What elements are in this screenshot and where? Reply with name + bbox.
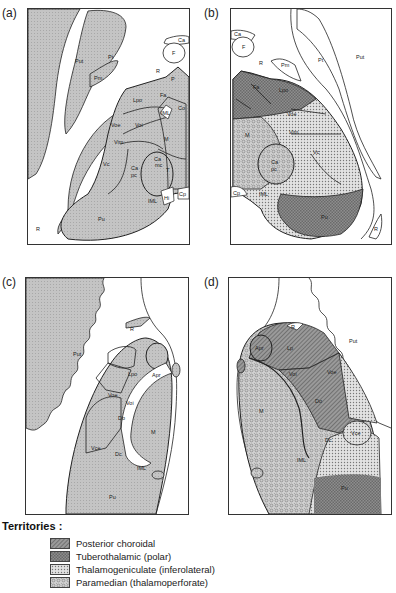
- label-voe: Voe: [108, 392, 117, 398]
- legend-label: Tuberothalamic (polar): [76, 551, 171, 562]
- label-p: P: [171, 76, 175, 82]
- circles-swatch-icon: [50, 577, 70, 588]
- label-r-2: R: [374, 226, 378, 232]
- label-iml-2: IML: [148, 198, 157, 204]
- hatch-swatch-icon: [50, 538, 70, 549]
- label-dc: Dc: [115, 451, 122, 457]
- label-m: M: [164, 136, 169, 142]
- label-mc: mc: [155, 162, 163, 168]
- label-vc: Vc: [313, 149, 320, 155]
- label-r: R: [259, 60, 263, 66]
- label-r-2: R: [36, 226, 40, 232]
- label-put: Put: [73, 351, 82, 357]
- label-lp: Lp: [287, 345, 293, 351]
- label-hi: Hi: [164, 195, 169, 201]
- label-pt: Pt: [108, 54, 114, 60]
- dots-swatch-icon: [50, 564, 70, 575]
- label-fa: Fa: [253, 84, 260, 90]
- legend-label: Thalamogeniculate (inferolateral): [76, 564, 215, 575]
- label-iml: IML: [137, 465, 146, 471]
- label-vim: Vim: [114, 139, 124, 145]
- label-iml: IML: [297, 457, 306, 463]
- label-m: M: [245, 132, 250, 138]
- label-co: Co: [178, 105, 185, 111]
- label-pc: pc: [131, 172, 137, 178]
- legend-label: Paramedian (thalamoperforate): [76, 577, 208, 588]
- label-fa: Fa: [160, 92, 167, 98]
- panel-c-diagram: Put R Lpo Apr Voe Voi Do M Vce Dc IML Pu: [26, 278, 188, 514]
- label-r: R: [291, 324, 295, 330]
- label-r: R: [156, 68, 160, 74]
- panel-d-label: (d): [204, 275, 219, 289]
- label-vce: Vce: [351, 430, 360, 436]
- label-pt: Pt: [318, 57, 324, 63]
- panel-a-frame: Put Pt Pm Ca F R P Fa Lpo Co IML Voe Voi…: [27, 8, 190, 245]
- label-put: Put: [75, 58, 84, 64]
- label-lpo: Lpo: [133, 97, 142, 103]
- label-voi: Voi: [289, 371, 297, 377]
- panel-b-diagram: Ca F R Pm Pt Put Fa Lpo Voe Vim M Vc Ca …: [231, 9, 391, 244]
- label-put: Put: [349, 338, 358, 344]
- label-pc: pc: [271, 166, 277, 172]
- label-m: M: [151, 429, 156, 435]
- label-voi: Voi: [135, 122, 143, 128]
- label-pm: Pm: [281, 62, 290, 68]
- label-iml: IML: [259, 191, 268, 197]
- label-voe: Voe: [327, 369, 336, 375]
- label-voe: Voe: [287, 111, 296, 117]
- label-pu: Pu: [341, 485, 348, 491]
- label-ca-pc: Ca: [131, 165, 139, 171]
- label-cp: Cp: [233, 190, 240, 196]
- panel-d-diagram: Put R Apr Lp Voe Voi Do M Vce Dc IML Pu: [229, 278, 391, 514]
- label-voi: Voi: [126, 400, 134, 406]
- label-apr: Apr: [255, 345, 264, 351]
- panel-c-label: (c): [2, 275, 16, 289]
- label-ca: Ca: [234, 31, 242, 37]
- panel-a-diagram: Put Pt Pm Ca F R P Fa Lpo Co IML Voe Voi…: [28, 9, 189, 244]
- label-iml: IML: [161, 110, 170, 116]
- panel-a-label: (a): [2, 6, 17, 20]
- label-vc: Vc: [103, 161, 110, 167]
- panel-b-label: (b): [204, 6, 219, 20]
- legend-label: Posterior choroidal: [76, 538, 155, 549]
- label-vce: Vce: [91, 445, 100, 451]
- legend-item-thalamogeniculate: Thalamogeniculate (inferolateral): [50, 563, 215, 575]
- crosshatch-swatch-icon: [50, 551, 70, 562]
- label-ca-pc: Ca: [271, 159, 279, 165]
- label-r: R: [130, 326, 134, 332]
- label-do: Do: [118, 415, 125, 421]
- legend-item-posterior-choroidal: Posterior choroidal: [50, 537, 155, 549]
- panel-d-frame: Put R Apr Lp Voe Voi Do M Vce Dc IML Pu: [228, 277, 392, 515]
- panel-b-frame: Ca F R Pm Pt Put Fa Lpo Voe Vim M Vc Ca …: [230, 8, 392, 245]
- label-cp: Cp: [179, 191, 186, 197]
- label-lpo: Lpo: [128, 371, 137, 377]
- label-apr: Apr: [152, 372, 161, 378]
- legend-item-paramedian: Paramedian (thalamoperforate): [50, 576, 208, 588]
- label-vim: Vim: [289, 129, 299, 135]
- label-do: Do: [315, 398, 322, 404]
- legend-title: Territories :: [2, 520, 62, 532]
- label-put: Put: [356, 54, 365, 60]
- label-voe: Voe: [111, 122, 120, 128]
- panel-c-frame: Put R Lpo Apr Voe Voi Do M Vce Dc IML Pu: [25, 277, 189, 515]
- label-pm: Pm: [94, 75, 103, 81]
- label-m: M: [259, 408, 264, 414]
- label-pu: Pu: [109, 494, 116, 500]
- label-pu: Pu: [98, 216, 105, 222]
- label-pu: Pu: [321, 214, 328, 220]
- label-lpo: Lpo: [279, 87, 288, 93]
- label-dc: Dc: [325, 437, 332, 443]
- legend-item-tuberothalamic: Tuberothalamic (polar): [50, 550, 171, 562]
- label-ca: Ca: [178, 37, 186, 43]
